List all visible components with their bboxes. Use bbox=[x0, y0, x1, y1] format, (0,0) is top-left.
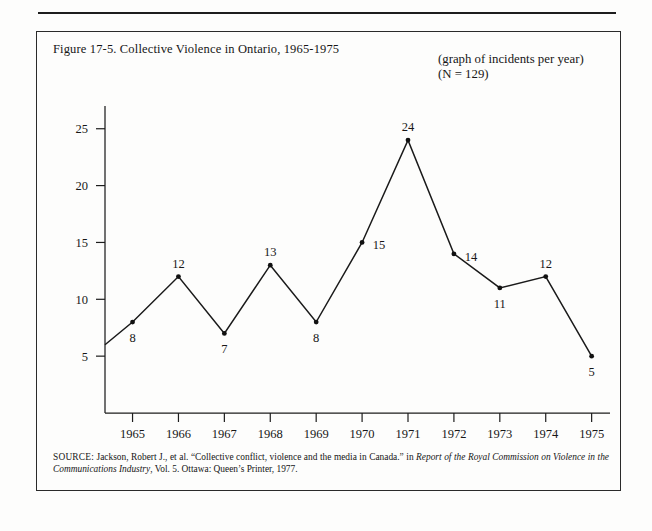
data-point-label: 8 bbox=[129, 331, 135, 345]
data-point-marker bbox=[176, 274, 181, 279]
x-axis-tick-label: 1965 bbox=[120, 427, 145, 441]
figure-box: Figure 17-5. Collective Violence in Onta… bbox=[36, 31, 621, 491]
x-axis-tick-label: 1972 bbox=[441, 427, 466, 441]
data-point-label: 11 bbox=[494, 297, 506, 311]
data-series bbox=[105, 140, 592, 356]
line-chart-plot-area: 510152025 196519661967196819691970197119… bbox=[37, 32, 622, 492]
page-background: Figure 17-5. Collective Violence in Onta… bbox=[0, 0, 652, 531]
data-point-label: 12 bbox=[539, 257, 552, 271]
source-citation-text: Jackson, Robert J., et al. “Collective c… bbox=[94, 452, 416, 462]
source-publication-info: , Vol. 5. Ottawa: Queen’s Printer, 1977. bbox=[150, 464, 297, 474]
data-point-marker bbox=[452, 251, 457, 256]
source-title-italic-part1: Report of the bbox=[416, 452, 465, 462]
data-point-label: 12 bbox=[172, 257, 185, 271]
data-point-marker bbox=[589, 354, 594, 359]
y-axis-tick-label: 25 bbox=[76, 122, 89, 136]
data-point-label: 15 bbox=[373, 238, 386, 252]
y-axis-tick-label: 10 bbox=[76, 293, 89, 307]
x-axis-tick-label: 1973 bbox=[487, 427, 512, 441]
data-point-marker bbox=[130, 320, 135, 325]
series-polyline bbox=[105, 140, 592, 356]
data-point-label: 14 bbox=[465, 250, 478, 264]
x-axis-tick-label: 1974 bbox=[533, 427, 559, 441]
data-point-marker bbox=[543, 274, 548, 279]
data-point-marker bbox=[406, 138, 411, 143]
x-axis: 1965196619671968196919701971197219731974… bbox=[105, 413, 610, 441]
data-point-marker bbox=[360, 240, 365, 245]
x-axis-tick-label: 1969 bbox=[304, 427, 329, 441]
y-axis-tick-label: 15 bbox=[76, 236, 89, 250]
x-axis-tick-label: 1970 bbox=[350, 427, 375, 441]
data-point-marker bbox=[268, 263, 273, 268]
x-axis-tick-label: 1966 bbox=[166, 427, 191, 441]
x-axis-tick-label: 1967 bbox=[212, 427, 237, 441]
x-axis-tick-label: 1971 bbox=[396, 427, 421, 441]
data-point-marker bbox=[222, 331, 227, 336]
data-point-marker bbox=[497, 286, 502, 291]
x-axis-tick-label: 1975 bbox=[579, 427, 604, 441]
y-axis-tick-label: 5 bbox=[82, 350, 88, 364]
data-point-label: 24 bbox=[402, 120, 415, 134]
data-point-marker bbox=[314, 320, 319, 325]
source-label: SOURCE: bbox=[53, 452, 94, 462]
data-point-label: 8 bbox=[313, 331, 319, 345]
line-chart-svg: 510152025 196519661967196819691970197119… bbox=[37, 32, 622, 492]
data-point-label: 13 bbox=[264, 245, 277, 259]
source-note: SOURCE: Jackson, Robert J., et al. “Coll… bbox=[53, 451, 609, 476]
page-top-rule bbox=[38, 12, 616, 14]
data-point-label: 7 bbox=[221, 342, 227, 356]
y-axis-tick-label: 20 bbox=[76, 179, 89, 193]
data-point-labels: 812713815241411125 bbox=[129, 120, 594, 379]
data-point-markers bbox=[130, 138, 594, 359]
y-axis: 510152025 bbox=[76, 106, 106, 413]
x-axis-tick-label: 1968 bbox=[258, 427, 283, 441]
data-point-label: 5 bbox=[589, 365, 595, 379]
